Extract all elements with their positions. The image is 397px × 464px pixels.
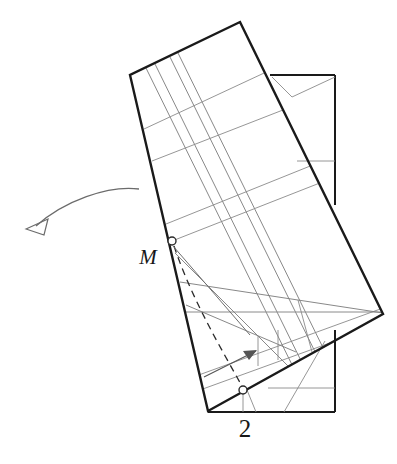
figure-root: M 2 [0,0,397,464]
point-marker-lower [239,386,247,394]
point-marker-m [168,237,176,245]
point-label-m: M [138,245,158,269]
figure-background [0,0,397,464]
figure-canvas: M 2 [0,0,397,464]
figure-number-label: 2 [239,415,252,442]
